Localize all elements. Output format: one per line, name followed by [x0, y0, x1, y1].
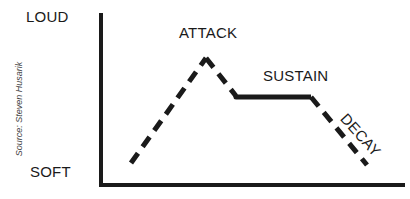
envelope-line — [131, 58, 367, 165]
decay-segment — [311, 97, 367, 165]
axes — [99, 13, 405, 187]
attack-segment — [131, 58, 206, 163]
attack-fall-segment — [206, 58, 236, 96]
sustain-segment — [236, 96, 311, 97]
envelope-diagram — [0, 0, 410, 199]
